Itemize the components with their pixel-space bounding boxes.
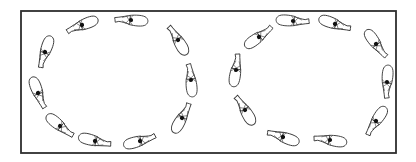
horse-and-rider-icon xyxy=(276,14,310,28)
horse-and-rider-icon xyxy=(362,27,390,61)
right-circle-track xyxy=(228,13,394,148)
horse-and-rider-icon xyxy=(27,75,49,110)
horse-and-rider-icon xyxy=(122,132,157,151)
horse-and-rider-icon xyxy=(313,132,348,148)
horse-and-rider-icon xyxy=(184,63,198,97)
horse-and-rider-icon xyxy=(317,13,352,35)
horse-and-rider-icon xyxy=(77,131,112,150)
horse-and-rider-icon xyxy=(169,101,195,135)
arena-border xyxy=(21,11,396,153)
horse-and-rider-icon xyxy=(266,126,301,148)
arena-diagram xyxy=(0,0,416,162)
horses-layer xyxy=(27,13,394,150)
horse-and-rider-icon xyxy=(362,104,390,138)
horse-and-rider-icon xyxy=(165,23,191,57)
horse-and-rider-icon xyxy=(228,53,244,88)
horse-and-rider-icon xyxy=(242,23,276,51)
horse-and-rider-icon xyxy=(34,34,56,69)
left-circle-track xyxy=(27,13,198,150)
horse-and-rider-icon xyxy=(65,14,100,36)
horse-and-rider-icon xyxy=(44,111,77,141)
horse-and-rider-icon xyxy=(232,93,258,127)
horse-and-rider-icon xyxy=(114,13,148,27)
horse-and-rider-icon xyxy=(380,65,394,99)
